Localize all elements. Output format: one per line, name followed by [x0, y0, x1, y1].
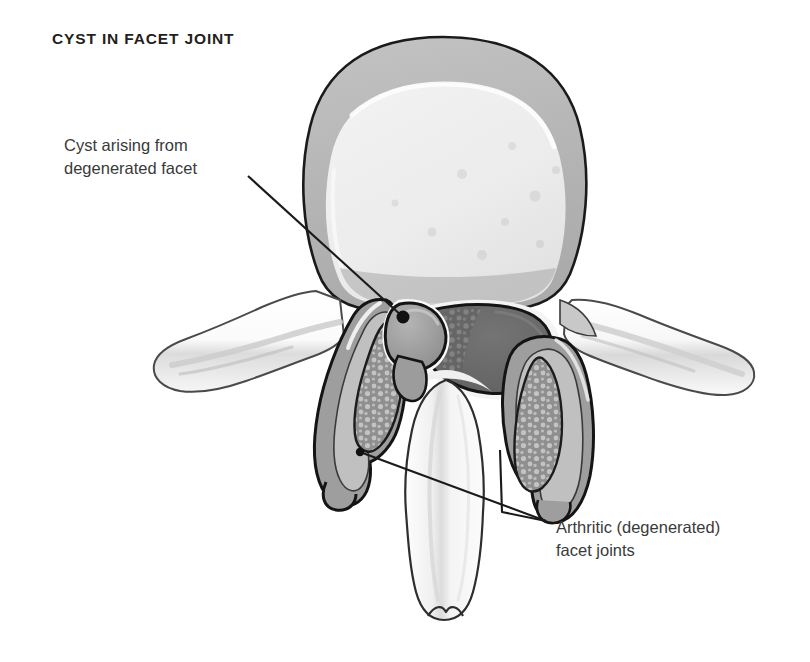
leader-dot-left-facet	[356, 448, 364, 456]
annotation-cyst-label: Cyst arising from degenerated facet	[64, 134, 197, 181]
left-transverse-process	[154, 291, 344, 392]
figure-title: CYST IN FACET JOINT	[52, 30, 234, 48]
vertebral-body	[303, 37, 586, 311]
right-facet-joint	[503, 337, 594, 523]
figure-container: CYST IN FACET JOINT Cyst arising from de…	[0, 0, 810, 662]
annotation-facet-joints-label: Arthritic (degenerated) facet joints	[556, 516, 720, 563]
right-transverse-process	[564, 300, 754, 395]
leader-dot-cyst	[397, 311, 410, 324]
